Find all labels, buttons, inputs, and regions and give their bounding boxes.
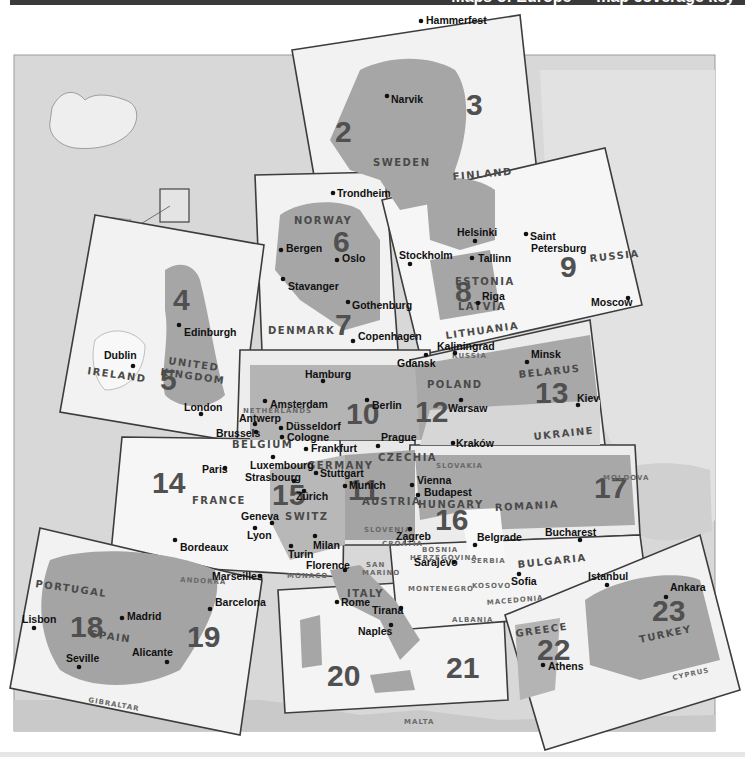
city-label-antwerp: Antwerp [239,412,281,424]
sheet-number-20[interactable]: 20 [327,659,360,692]
country-label-slovakia: SLOVAKIA [436,462,483,470]
city-label-edinburgh: Edinburgh [184,326,237,338]
sheet-number-12[interactable]: 12 [415,395,448,428]
city-label-berlin: Berlin [372,399,402,411]
city-label-kaliningrad: Kaliningrad [437,340,495,352]
city-label-florence: Florence [306,559,350,571]
city-label-stuttgart: Stuttgart [320,467,364,479]
city-label-ankara: Ankara [670,581,706,593]
city-label-tirana: Tirana [372,604,403,616]
city-label-tallinn: Tallinn [478,252,511,264]
city-label-luxembourg: Luxembourg [250,459,314,471]
country-label-albania: ALBANIA [452,616,494,624]
country-label-san: SAN [366,561,385,569]
city-label-copenhagen: Copenhagen [358,330,422,342]
country-label-czechia: CZECHIA [378,452,437,463]
city-label-lisbon: Lisbon [22,613,56,625]
country-label-kosovo: KOSOVO [472,582,511,590]
country-label-malta: MALTA [404,718,434,726]
country-label-bosnia: BOSNIA [422,546,458,554]
city-label-brussels: Brussels [216,427,261,439]
sheet-number-2[interactable]: 2 [335,115,352,148]
city-label-warsaw: Warsaw [448,402,488,414]
city-label-kiev: Kiev [577,392,599,404]
city-label-amsterdam: Amsterdam [270,398,328,410]
city-label-hamburg: Hamburg [305,368,351,380]
city-label-hammerfest: Hammerfest [426,14,487,26]
sheet-number-21[interactable]: 21 [446,651,479,684]
city-label-madrid: Madrid [127,610,161,622]
country-label-sweden: SWEDEN [373,157,431,168]
city-label-petersburg: Petersburg [531,242,586,254]
city-label-marseilles: Marseilles [212,570,263,582]
city-label-stavanger: Stavanger [288,280,339,292]
sheet-number-23[interactable]: 23 [652,594,685,627]
country-label-poland: POLAND [427,379,483,390]
city-label-athens: Athens [548,660,584,672]
city-label-riga: Riga [482,290,505,302]
city-label-gothenburg: Gothenburg [352,299,412,311]
country-label-serbia: SERBIA [471,557,506,565]
city-label-rome: Rome [341,596,370,608]
city-label-bordeaux: Bordeaux [180,541,229,553]
city-label-prague: Prague [381,431,417,443]
city-label-strasbourg: Strasbourg [245,471,301,483]
city-label-stockholm: Stockholm [399,249,453,261]
city-label-naples: Naples [358,625,393,637]
city-label-barcelona: Barcelona [215,596,266,608]
city-label-lyon: Lyon [247,529,272,541]
city-label-istanbul: Istanbul [588,570,628,582]
city-label-zurich: Zürich [296,490,328,502]
sheet-number-9[interactable]: 9 [560,250,577,283]
city-label-helsinki: Helsinki [457,226,497,238]
sheet-number-14[interactable]: 14 [152,466,186,499]
country-label-hungary: HUNGARY [418,499,484,510]
city-label-minsk: Minsk [531,348,561,360]
footer-divider [0,752,745,757]
city-label-frankfurt: Frankfurt [311,442,358,454]
city-label-moscow: Moscow [591,296,633,308]
country-label-latvia: LATVIA [458,301,506,312]
country-label-denmark: DENMARK [268,325,335,336]
city-label-sarajevo: Sarajevo [414,556,458,568]
country-label-marino: MARINO [362,569,400,577]
city-label-alicante: Alicante [132,646,173,658]
country-label-france: FRANCE [192,495,246,506]
city-label-munich: Munich [349,479,386,491]
city-label-zagreb: Zagreb [396,530,431,542]
sheet-number-13[interactable]: 13 [535,376,568,409]
sheet-number-4[interactable]: 4 [173,283,190,316]
city-label-milan: Milan [313,539,340,551]
country-label-estonia: ESTONIA [455,276,515,287]
city-label-vienna: Vienna [417,474,451,486]
europe-coverage-map: 2 3 4 5 6 7 8 9 10 11 12 13 14 15 16 17 … [0,0,745,757]
city-label-geneva: Geneva [241,510,279,522]
city-label-london: London [184,401,222,413]
city-label-narvik: Narvik [391,93,423,105]
city-label-belgrade: Belgrade [477,531,522,543]
city-label-budapest: Budapest [424,486,472,498]
country-label-moldova: MOLDOVA [603,474,649,482]
sheet-number-19[interactable]: 19 [187,620,220,653]
city-label-gdansk: Gdansk [397,357,436,369]
city-label-oslo: Oslo [342,252,365,264]
sheet-number-3[interactable]: 3 [466,88,483,121]
city-label-krakow: Kraków [456,437,495,449]
country-label-norway: NORWAY [294,215,352,226]
city-label-dublin: Dublin [104,349,137,361]
city-label-seville: Seville [66,652,99,664]
city-label-paris: Paris [202,463,228,475]
city-label-trondheim: Trondheim [337,187,391,199]
country-label-monaco: MONACO [287,572,328,580]
land-sardinia [300,615,322,668]
country-label-switz: SWITZ [285,511,329,522]
city-label-saint: Saint [530,230,556,242]
country-label-montenegro: MONTENEGRO [408,585,474,593]
city-label-bucharest: Bucharest [545,526,597,538]
city-label-bergen: Bergen [286,242,322,254]
faroe-inset-source [160,189,189,222]
land-finland-south [425,178,495,250]
sheet-number-7[interactable]: 7 [335,308,352,341]
country-label-austria: AUSTRIA [362,496,421,507]
country-label-belgium: BELGIUM [232,439,293,450]
